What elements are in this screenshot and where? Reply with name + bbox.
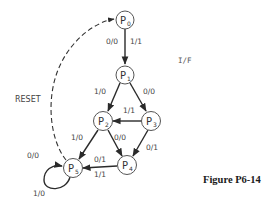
svg-text:2: 2 bbox=[105, 121, 109, 128]
svg-text:1: 1 bbox=[127, 75, 131, 82]
state-p1: P 1 bbox=[116, 66, 134, 84]
edge-p1-p2 bbox=[108, 83, 120, 111]
label-p4-p5-bottom: 1/1 bbox=[94, 170, 106, 179]
label-p0-p1-right: 1/1 bbox=[130, 37, 142, 46]
label-p1-p2: 1/0 bbox=[94, 87, 106, 96]
label-p1-p3: 0/0 bbox=[143, 87, 155, 96]
label-p2-p5: 1/0 bbox=[71, 133, 83, 142]
svg-text:P: P bbox=[98, 116, 104, 127]
label-p3-p4: 0/1 bbox=[146, 143, 158, 152]
label-p3-p2: 1/1 bbox=[123, 106, 135, 115]
svg-text:5: 5 bbox=[75, 168, 79, 175]
label-p0-p1-left: 0/0 bbox=[106, 37, 118, 46]
state-diagram: P 0 P 1 P 2 P 3 P 4 P 5 0/0 1/1 1/0 0/0 … bbox=[0, 0, 273, 205]
svg-text:P: P bbox=[120, 15, 126, 26]
edge-p4-p5 bbox=[83, 166, 117, 168]
reset-label: RESET bbox=[15, 95, 41, 104]
state-p5: P 5 bbox=[64, 159, 83, 178]
figure-caption: Figure P6-14 bbox=[203, 174, 262, 185]
svg-text:4: 4 bbox=[129, 165, 133, 172]
svg-text:P: P bbox=[68, 163, 74, 174]
state-p2: P 2 bbox=[94, 112, 113, 131]
label-p2-p4: 0/0 bbox=[114, 133, 126, 142]
svg-text:P: P bbox=[120, 70, 126, 81]
svg-text:3: 3 bbox=[153, 121, 157, 128]
state-p4: P 4 bbox=[118, 156, 137, 175]
state-p0: P 0 bbox=[116, 11, 134, 29]
state-p3: P 3 bbox=[142, 112, 161, 131]
label-p5-self: 1/0 bbox=[33, 189, 45, 198]
svg-text:P: P bbox=[146, 116, 152, 127]
io-legend: I/F bbox=[178, 56, 192, 65]
svg-text:P: P bbox=[122, 160, 128, 171]
svg-text:0: 0 bbox=[127, 20, 131, 27]
label-p5-p0: 0/0 bbox=[27, 151, 39, 160]
label-p4-p5-top: 0/1 bbox=[94, 155, 106, 164]
